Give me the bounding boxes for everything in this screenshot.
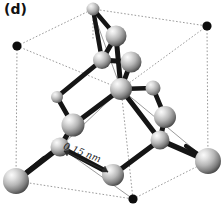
panel-label: (d) <box>4 2 27 16</box>
atom-sphere <box>106 26 127 47</box>
atom-sphere <box>62 114 85 137</box>
atom-sphere <box>146 81 161 96</box>
cube-edge-top-back-left <box>17 9 93 46</box>
cube-edge-vert-back-right <box>207 26 208 161</box>
figure-panel: (d) 0.15 nm <box>0 0 224 215</box>
cube-edge-vert-back-left <box>16 46 17 181</box>
corner-dot-back-top-left <box>12 41 21 50</box>
atom-sphere <box>195 148 221 174</box>
atom-sphere <box>154 106 176 128</box>
corner-dot-back-top-right <box>202 21 211 30</box>
corner-dot-front-bot-center <box>128 194 137 203</box>
crystal-structure-illustration <box>0 0 224 215</box>
atom-sphere <box>121 52 142 73</box>
atom-sphere <box>110 78 132 100</box>
atom-sphere <box>151 131 170 150</box>
atom-sphere <box>3 168 29 194</box>
atom-sphere <box>93 51 111 69</box>
cube-edge-top-back-right <box>93 9 207 26</box>
atom-sphere <box>87 3 100 16</box>
atom-sphere <box>51 91 63 103</box>
